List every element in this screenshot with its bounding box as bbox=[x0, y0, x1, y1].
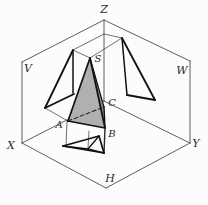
label-vertex-b: B bbox=[107, 128, 115, 139]
label-plane-h: H bbox=[104, 172, 115, 185]
label-vertex-s: S bbox=[95, 53, 102, 64]
descriptive-geometry-figure: ZVWXYHSABC bbox=[0, 0, 208, 205]
w-plane-top-edge bbox=[104, 20, 190, 61]
label-axis-x: X bbox=[6, 139, 16, 152]
transfer-line-s-front-to-z bbox=[73, 34, 104, 50]
transfer-line-z-to-s-side bbox=[104, 34, 122, 38]
projector-sfront-to-s bbox=[73, 50, 90, 58]
projector-b-to-h bbox=[104, 128, 105, 153]
projector-a-to-h bbox=[66, 121, 67, 147]
v-plane-top-edge bbox=[22, 20, 104, 62]
label-axis-y: Y bbox=[192, 137, 201, 150]
label-axis-z: Z bbox=[99, 3, 108, 16]
h-plane-right-bottom-edge bbox=[106, 143, 190, 188]
y-axis-fold-line bbox=[104, 101, 190, 143]
label-vertex-a: A bbox=[54, 119, 62, 130]
v-projection-edge-left bbox=[45, 50, 73, 108]
pyramid-edge-b-c bbox=[104, 107, 105, 128]
h-projection-edge-c-b bbox=[99, 136, 104, 153]
w-projection-edge-bottom bbox=[127, 95, 155, 100]
label-plane-v: V bbox=[24, 62, 33, 75]
figure-panel: ZVWXYHSABC bbox=[0, 0, 208, 205]
label-vertex-c: C bbox=[108, 97, 116, 108]
h-projection-edge-a-c bbox=[63, 136, 99, 146]
label-plane-w: W bbox=[176, 64, 189, 77]
